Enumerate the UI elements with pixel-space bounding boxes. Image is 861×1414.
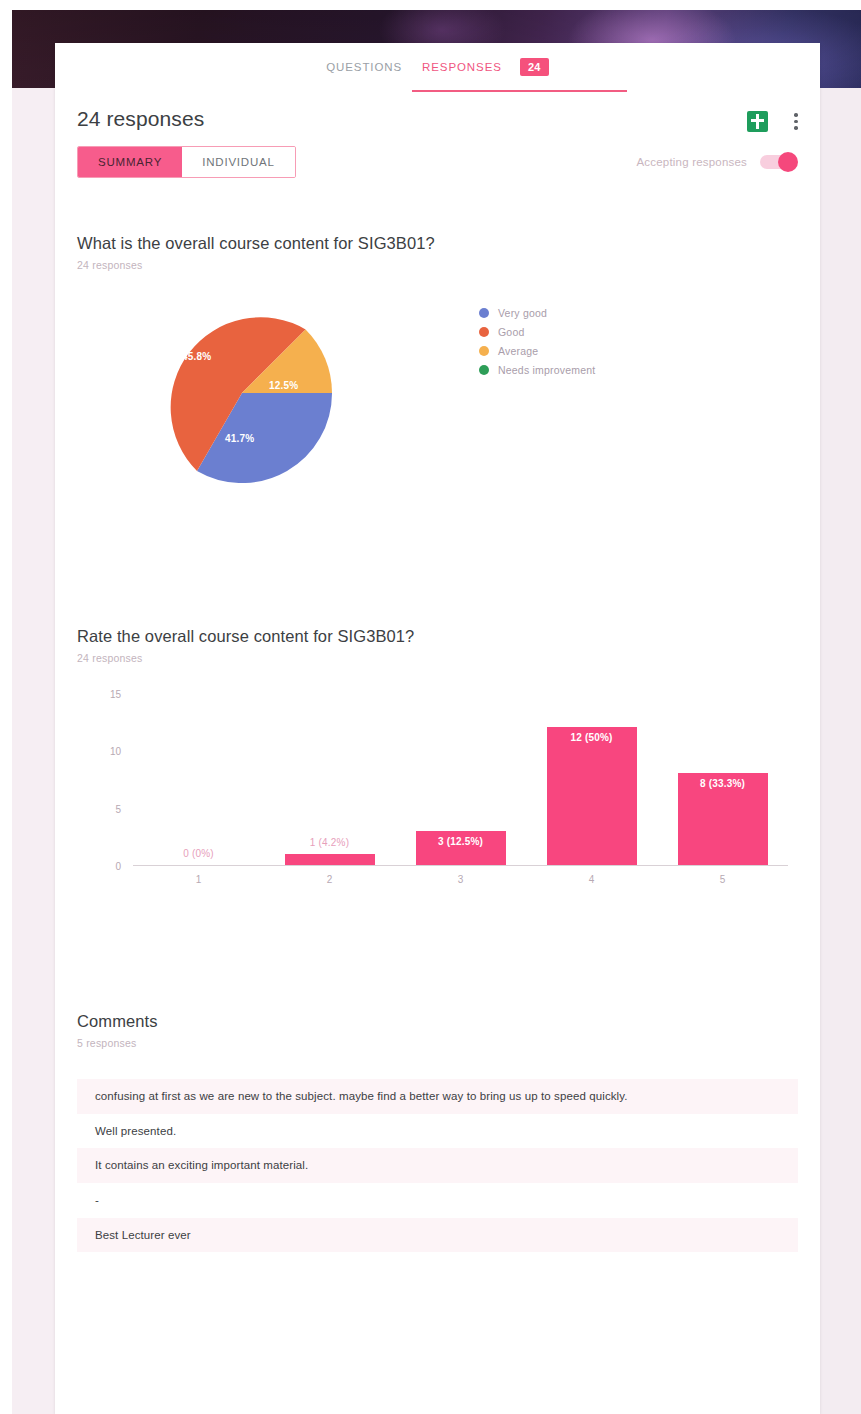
question-subtitle-1: 24 responses [77,259,798,271]
y-tick-15: 15 [110,689,121,700]
bar-column-2: 1 (4.2%) [280,694,380,865]
question-block-comments: Comments 5 responses confusing at first … [55,1012,820,1252]
comment-row: Best Lecturer ever [77,1218,798,1253]
toggle-knob [778,152,798,172]
question-subtitle-3: 5 responses [77,1037,798,1049]
google-sheets-icon[interactable] [747,111,768,132]
accepting-responses-control: Accepting responses [636,155,796,169]
legend-dot-very-good [479,308,489,318]
page-title: 24 responses [77,107,204,131]
form-tabbar: QUESTIONS RESPONSES 24 [55,43,820,93]
bar-value-5: 8 (33.3%) [678,778,768,789]
responses-count-badge: 24 [520,58,549,76]
comment-row: It contains an exciting important materi… [77,1148,798,1183]
tab-questions-label: QUESTIONS [326,61,402,73]
legend-item-good: Good [479,322,595,341]
bar-chart-y-axis: 15 10 5 0 [77,694,129,866]
question-title-3: Comments [77,1012,798,1031]
legend-label-average: Average [498,345,538,357]
header-actions [747,107,798,132]
legend-item-very-good: Very good [479,303,595,322]
pie-chart-svg [152,303,332,483]
x-label-5: 5 [673,874,773,885]
bar-chart-x-axis: 1 2 3 4 5 [133,874,788,885]
bar-column-4: 12 (50%) [542,694,642,865]
x-label-3: 3 [411,874,511,885]
accepting-responses-toggle[interactable] [760,155,796,169]
legend-label-needs-improvement: Needs improvement [498,364,595,376]
view-mode-segmented-control: SUMMARY INDIVIDUAL [77,146,296,178]
x-label-1: 1 [149,874,249,885]
bar-column-5: 8 (33.3%) [673,694,773,865]
bar-chart-area: 15 10 5 0 0 (0%) 1 (4.2%) [77,694,798,894]
bar-column-1: 0 (0%) [149,694,249,865]
question-subtitle-2: 24 responses [77,652,798,664]
more-vertical-icon[interactable] [794,113,798,130]
tab-individual[interactable]: INDIVIDUAL [182,147,295,177]
bar-value-1: 0 (0%) [154,848,244,859]
x-label-2: 2 [280,874,380,885]
responses-card: QUESTIONS RESPONSES 24 24 responses SUMM… [55,43,820,1414]
legend-dot-needs-improvement [479,365,489,375]
pie-chart-area: 45.8% 12.5% 41.7% Very good Good Average [77,297,798,507]
accepting-responses-label: Accepting responses [636,156,747,168]
y-tick-5: 5 [115,804,121,815]
bar-value-3: 3 (12.5%) [416,836,506,847]
tab-responses-group: RESPONSES 24 [412,44,559,92]
tab-summary-label: SUMMARY [98,156,162,168]
pie-chart: 45.8% 12.5% 41.7% [152,303,332,483]
tab-active-underline [412,90,627,92]
bar-value-4: 12 (50%) [547,732,637,743]
legend-item-average: Average [479,341,595,360]
y-tick-10: 10 [110,746,121,757]
question-block-bar: Rate the overall course content for SIG3… [55,627,820,894]
pie-label-good: 45.8% [182,351,211,362]
pie-label-very-good: 41.7% [225,433,254,444]
bar-value-2: 1 (4.2%) [285,837,375,848]
pie-chart-holder: 45.8% 12.5% 41.7% [77,297,407,507]
question-block-pie: What is the overall course content for S… [55,234,820,507]
bar-column-3: 3 (12.5%) [411,694,511,865]
bar-4[interactable]: 12 (50%) [547,727,637,865]
tab-questions[interactable]: QUESTIONS [316,47,412,89]
tab-responses-label: RESPONSES [422,61,502,73]
bar-2[interactable]: 1 (4.2%) [285,854,375,866]
x-label-4: 4 [542,874,642,885]
legend-dot-good [479,327,489,337]
question-title-2: Rate the overall course content for SIG3… [77,627,798,646]
bar-5[interactable]: 8 (33.3%) [678,773,768,865]
tab-individual-label: INDIVIDUAL [202,156,275,168]
tab-responses[interactable]: RESPONSES 24 [412,44,559,92]
legend-dot-average [479,346,489,356]
bar-chart-plot: 0 (0%) 1 (4.2%) 3 (12.5%) 12 (50%) [133,694,788,866]
comment-row: Well presented. [77,1114,798,1149]
bar-3[interactable]: 3 (12.5%) [416,831,506,865]
legend-item-needs-improvement: Needs improvement [479,360,595,379]
responses-header: 24 responses [55,107,820,132]
comment-row: - [77,1183,798,1218]
pie-label-average: 12.5% [269,380,298,391]
y-tick-0: 0 [115,861,121,872]
comments-list: confusing at first as we are new to the … [77,1079,798,1252]
question-title-1: What is the overall course content for S… [77,234,798,253]
page-backdrop-right [820,88,861,1414]
legend-label-good: Good [498,326,525,338]
pie-legend: Very good Good Average Needs improvement [407,297,595,379]
comment-row: confusing at first as we are new to the … [77,1079,798,1114]
responses-toolbar: SUMMARY INDIVIDUAL Accepting responses [55,146,820,178]
tab-summary[interactable]: SUMMARY [78,147,182,177]
legend-label-very-good: Very good [498,307,547,319]
